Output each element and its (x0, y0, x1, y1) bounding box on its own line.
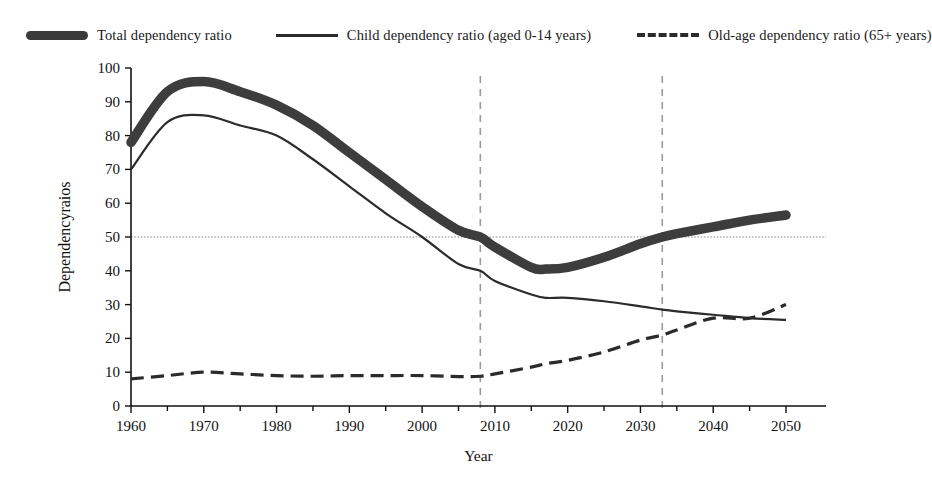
y-tick-label: 100 (98, 60, 121, 76)
x-axis: 1960197019801990200020102020203020402050 (116, 406, 826, 434)
y-tick-label: 50 (105, 229, 120, 245)
y-tick-label: 20 (105, 330, 120, 346)
y-tick-label: 40 (105, 263, 120, 279)
x-tick-label: 1980 (262, 418, 292, 434)
y-tick-label: 0 (113, 398, 121, 414)
x-tick-label: 2040 (698, 418, 728, 434)
x-tick-label: 1960 (116, 418, 146, 434)
y-axis-title: Dependencyraios (56, 181, 74, 292)
y-tick-label: 70 (105, 161, 120, 177)
x-tick-label: 2020 (553, 418, 583, 434)
x-tick-label: 2010 (480, 418, 510, 434)
y-tick-label: 10 (105, 364, 120, 380)
series-line-total (131, 82, 786, 270)
y-tick-label: 90 (105, 94, 120, 110)
x-tick-label: 2000 (407, 418, 437, 434)
y-axis: 0102030405060708090100 (98, 60, 132, 414)
x-tick-label: 1970 (189, 418, 219, 434)
y-tick-label: 30 (105, 297, 120, 313)
x-axis-title: Year (464, 447, 493, 464)
series-line-child (131, 115, 786, 320)
y-tick-label: 80 (105, 128, 120, 144)
data-series (131, 82, 786, 379)
y-tick-label: 60 (105, 195, 120, 211)
x-tick-label: 2050 (771, 418, 801, 434)
x-tick-label: 1990 (334, 418, 364, 434)
x-tick-label: 2030 (625, 418, 655, 434)
series-line-oldage (131, 305, 786, 379)
